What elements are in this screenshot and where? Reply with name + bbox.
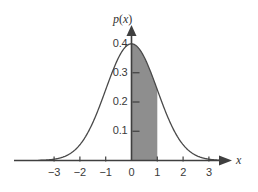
y-tick-label: 0.4 (98, 37, 128, 49)
y-tick-label: 0.1 (98, 124, 128, 136)
x-tick-label: 2 (171, 166, 195, 178)
y-tick-label: 0.2 (98, 95, 128, 107)
x-tick-label: 0 (120, 166, 144, 178)
y-axis-label-paren-close: ) (128, 12, 132, 26)
x-axis-label: x (236, 153, 241, 168)
x-tick-label: −1 (94, 166, 118, 178)
x-axis-arrowhead (219, 156, 232, 166)
y-axis-label: p(x) (113, 12, 132, 27)
x-tick-label: 1 (145, 166, 169, 178)
y-tick-label: 0.3 (98, 66, 128, 78)
x-tick-label: −2 (68, 166, 92, 178)
x-tick-label: −3 (42, 166, 66, 178)
gaussian-distribution-figure: −3−2−10123 0.10.20.30.4 p(x) x (0, 0, 258, 192)
x-tick-label: 3 (197, 166, 221, 178)
plot-canvas (0, 0, 258, 192)
